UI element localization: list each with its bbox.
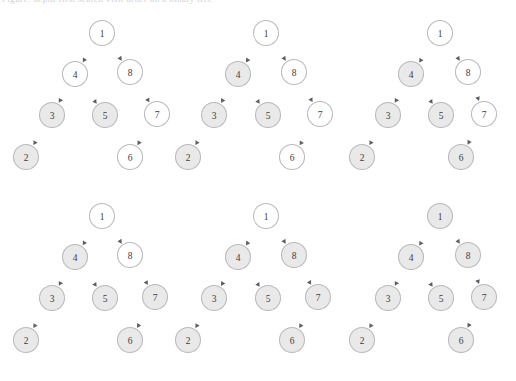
edge-arrowhead [281, 56, 285, 61]
tree-node-2[interactable]: 2 [176, 328, 201, 353]
node-label-4: 4 [409, 253, 414, 263]
tree-node-4[interactable]: 4 [63, 245, 88, 270]
tree-node-5[interactable]: 5 [93, 103, 118, 128]
node-label-5: 5 [439, 111, 444, 121]
edge-arrowhead [419, 58, 423, 63]
tree-node-1[interactable]: 1 [428, 204, 453, 229]
node-label-7: 7 [316, 293, 321, 303]
node-label-7: 7 [318, 110, 323, 120]
tree-node-7[interactable]: 7 [472, 102, 497, 127]
tree-node-6[interactable]: 6 [280, 328, 305, 353]
tree-edge-1-4 [83, 226, 95, 245]
tree-node-6[interactable]: 6 [280, 145, 305, 170]
tree-edge-8-7 [137, 83, 150, 103]
edge-arrowhead [33, 323, 37, 328]
tree-node-8[interactable]: 8 [282, 243, 307, 268]
tree-node-8[interactable]: 8 [456, 60, 481, 85]
tree-node-1[interactable]: 1 [90, 204, 115, 229]
tree-node-2[interactable]: 2 [350, 328, 375, 353]
tree-node-1[interactable]: 1 [90, 21, 115, 46]
node-label-3: 3 [50, 294, 55, 304]
tree-edge-8-7 [136, 266, 147, 285]
tree-node-3[interactable]: 3 [376, 286, 401, 311]
tree-edge-1-8 [273, 43, 286, 60]
edge-arrowhead [455, 239, 459, 244]
tree-node-7[interactable]: 7 [143, 285, 168, 310]
tree-node-2[interactable]: 2 [176, 145, 201, 170]
tree-diagram-2: 14835726 [172, 0, 344, 190]
tree-node-3[interactable]: 3 [202, 103, 227, 128]
tree-node-2[interactable]: 2 [14, 328, 39, 353]
tree-node-7[interactable]: 7 [308, 102, 333, 127]
tree-edge-7-6 [467, 308, 478, 328]
tree-node-8[interactable]: 8 [282, 60, 307, 85]
tree-node-1[interactable]: 1 [254, 21, 279, 46]
tree-node-2[interactable]: 2 [350, 145, 375, 170]
tree-node-2[interactable]: 2 [14, 145, 39, 170]
edge-arrowhead [419, 241, 423, 246]
tree-node-1[interactable]: 1 [254, 204, 279, 229]
edge-arrowhead [428, 282, 432, 287]
edge-arrowhead [475, 279, 479, 284]
tree-node-3[interactable]: 3 [40, 286, 65, 311]
edge-arrowhead [300, 140, 304, 145]
tree-node-6[interactable]: 6 [118, 145, 143, 170]
tree-diagram-4: 14835726 [0, 191, 172, 381]
edge-arrowhead [59, 281, 63, 286]
tree-edge-4-3 [59, 268, 69, 286]
tree-edge-8-7 [472, 84, 479, 101]
node-label-5: 5 [103, 294, 108, 304]
edge-arrowhead [59, 98, 63, 103]
node-label-6: 6 [459, 336, 464, 346]
edge-arrowhead [246, 241, 250, 246]
tree-node-4[interactable]: 4 [226, 62, 251, 87]
edge-arrowhead [33, 140, 37, 145]
tree-edge-1-8 [273, 226, 286, 243]
tree-node-5[interactable]: 5 [429, 103, 454, 128]
tree-edge-4-3 [59, 85, 69, 103]
edge-arrowhead [428, 99, 432, 104]
tree-node-5[interactable]: 5 [256, 103, 281, 128]
tree-node-4[interactable]: 4 [63, 62, 88, 87]
tree-node-6[interactable]: 6 [449, 145, 474, 170]
node-label-1: 1 [100, 212, 105, 222]
node-label-4: 4 [73, 70, 78, 80]
node-label-7: 7 [482, 110, 487, 120]
edge-arrowhead [83, 240, 87, 245]
node-label-6: 6 [128, 336, 133, 346]
tree-node-3[interactable]: 3 [376, 103, 401, 128]
edge-arrowhead [475, 96, 479, 101]
tree-node-8[interactable]: 8 [118, 60, 143, 85]
tree-node-6[interactable]: 6 [449, 328, 474, 353]
tree-node-4[interactable]: 4 [399, 245, 424, 270]
edge-arrowhead [307, 280, 311, 285]
tree-diagram-6: 14835726 [344, 191, 516, 381]
tree-node-5[interactable]: 5 [429, 286, 454, 311]
node-label-3: 3 [386, 294, 391, 304]
tree-node-7[interactable]: 7 [145, 102, 170, 127]
tree-node-3[interactable]: 3 [202, 286, 227, 311]
tree-node-5[interactable]: 5 [93, 286, 118, 311]
node-label-3: 3 [212, 294, 217, 304]
tree-node-8[interactable]: 8 [118, 243, 143, 268]
edge-arrowhead [255, 99, 259, 104]
tree-node-7[interactable]: 7 [306, 285, 331, 310]
tree-node-5[interactable]: 5 [256, 286, 281, 311]
tree-node-8[interactable]: 8 [456, 243, 481, 268]
tree-edge-4-5 [418, 84, 432, 104]
tree-node-3[interactable]: 3 [40, 103, 65, 128]
node-label-2: 2 [360, 336, 365, 346]
edge-arrowhead [221, 98, 225, 103]
tree-edge-7-6 [467, 125, 478, 145]
tree-edge-4-5 [245, 84, 259, 104]
tree-panel-grid: 1483572614835726148357261483572614835726… [0, 0, 516, 381]
edge-arrowhead [137, 323, 141, 328]
tree-node-4[interactable]: 4 [399, 62, 424, 87]
tree-diagram-1: 14835726 [0, 0, 172, 190]
tree-node-6[interactable]: 6 [118, 328, 143, 353]
tree-edge-3-2 [33, 126, 45, 145]
tree-node-1[interactable]: 1 [428, 21, 453, 46]
tree-node-7[interactable]: 7 [472, 285, 497, 310]
tree-edge-1-4 [419, 43, 433, 62]
tree-node-4[interactable]: 4 [226, 245, 251, 270]
